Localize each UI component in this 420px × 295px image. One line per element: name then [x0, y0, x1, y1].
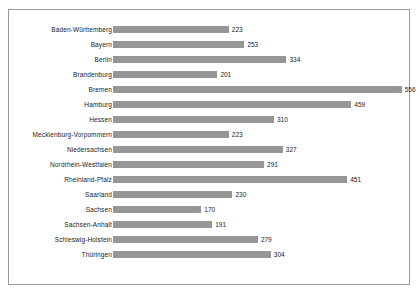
bar-value-label: 223: [229, 22, 243, 37]
category-label: Thüringen: [82, 247, 112, 262]
bar: [113, 101, 351, 108]
bar-row: Bayern253: [9, 37, 409, 52]
bar-value-label: 201: [217, 67, 231, 82]
bar-track: 310: [113, 112, 407, 127]
bar-track: 253: [113, 37, 407, 52]
bar-value-label: 451: [347, 172, 361, 187]
bar-row: Niedersachsen327: [9, 142, 409, 157]
bar-row: Bremen556: [9, 82, 409, 97]
bar-track: 201: [113, 67, 407, 82]
bar: [113, 206, 201, 213]
category-label: Sachsen-Anhalt: [64, 217, 112, 232]
bar-track: 327: [113, 142, 407, 157]
bar-track: 556: [113, 82, 407, 97]
bar: [113, 221, 212, 228]
bar-track: 304: [113, 247, 407, 262]
bar-chart-plot-area: Baden-Württemberg223Bayern253Berlin334Br…: [9, 10, 409, 284]
bar-track: 223: [113, 22, 407, 37]
bar-value-label: 191: [212, 217, 226, 232]
category-label: Baden-Württemberg: [51, 22, 112, 37]
bar: [113, 146, 283, 153]
bar-row: Mecklenburg-Vorpommern223: [9, 127, 409, 142]
category-label: Bayern: [91, 37, 112, 52]
bar-row: Schleswig-Holstein279: [9, 232, 409, 247]
bar-track: 279: [113, 232, 407, 247]
bar-row: Thüringen304: [9, 247, 409, 262]
category-label: Bremen: [88, 82, 112, 97]
category-label: Mecklenburg-Vorpommern: [33, 127, 112, 142]
bar: [113, 251, 271, 258]
bar: [113, 236, 258, 243]
bar: [113, 176, 347, 183]
bar-row: Sachsen170: [9, 202, 409, 217]
bar-value-label: 459: [351, 97, 365, 112]
bar-row: Saarland230: [9, 187, 409, 202]
bar-value-label: 279: [258, 232, 272, 247]
bar-row: Hamburg459: [9, 97, 409, 112]
category-label: Berlin: [95, 52, 112, 67]
category-label: Niedersachsen: [67, 142, 112, 157]
bar: [113, 26, 229, 33]
bar-value-label: 291: [264, 157, 278, 172]
bar-track: 334: [113, 52, 407, 67]
bar-value-label: 327: [283, 142, 297, 157]
bar: [113, 86, 402, 93]
bar: [113, 161, 264, 168]
category-label: Rheinland-Pfalz: [64, 172, 112, 187]
bar-track: 230: [113, 187, 407, 202]
bar-row: Nordrhein-Westfalen291: [9, 157, 409, 172]
bar: [113, 116, 274, 123]
bar-track: 459: [113, 97, 407, 112]
category-label: Brandenburg: [73, 67, 112, 82]
chart-frame: Baden-Württemberg223Bayern253Berlin334Br…: [8, 9, 410, 285]
bar-track: 291: [113, 157, 407, 172]
bar: [113, 191, 232, 198]
bar-value-label: 556: [402, 82, 416, 97]
bar-track: 451: [113, 172, 407, 187]
category-label: Hamburg: [84, 97, 112, 112]
bar-row: Brandenburg201: [9, 67, 409, 82]
bar-track: 170: [113, 202, 407, 217]
category-label: Sachsen: [86, 202, 112, 217]
bar-value-label: 253: [244, 37, 258, 52]
bar: [113, 56, 286, 63]
category-label: Schleswig-Holstein: [55, 232, 112, 247]
bar-value-label: 230: [232, 187, 246, 202]
bar-value-label: 310: [274, 112, 288, 127]
bar-track: 191: [113, 217, 407, 232]
bar-value-label: 334: [286, 52, 300, 67]
category-label: Nordrhein-Westfalen: [50, 157, 112, 172]
bar: [113, 131, 229, 138]
bar-value-label: 170: [201, 202, 215, 217]
bar-track: 223: [113, 127, 407, 142]
bar-row: Sachsen-Anhalt191: [9, 217, 409, 232]
bar-row: Baden-Württemberg223: [9, 22, 409, 37]
bar-row: Hessen310: [9, 112, 409, 127]
bar: [113, 71, 217, 78]
bar-row: Berlin334: [9, 52, 409, 67]
bar-row: Rheinland-Pfalz451: [9, 172, 409, 187]
bar-value-label: 223: [229, 127, 243, 142]
bar: [113, 41, 244, 48]
category-label: Saarland: [85, 187, 112, 202]
category-label: Hessen: [89, 112, 112, 127]
bar-value-label: 304: [271, 247, 285, 262]
